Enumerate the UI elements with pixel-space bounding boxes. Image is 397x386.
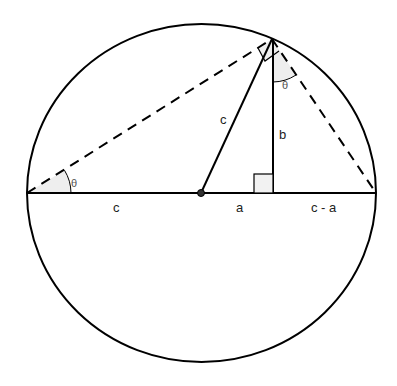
label-radius: c [220,112,227,127]
label-center-segment: a [236,200,244,215]
label-angle-top: θ [282,79,288,91]
label-altitude: b [279,127,286,142]
left-chord-dashed [27,39,272,193]
diagram-canvas: c a c - a c b θ θ [0,0,397,386]
right-angle-marker-foot [254,174,273,193]
label-left-segment: c [113,200,120,215]
geometry-diagram: c a c - a c b θ θ [0,0,397,386]
label-right-segment: c - a [311,200,337,215]
center-point [198,190,205,197]
label-angle-left: θ [71,177,77,189]
right-chord-dashed [272,39,376,193]
